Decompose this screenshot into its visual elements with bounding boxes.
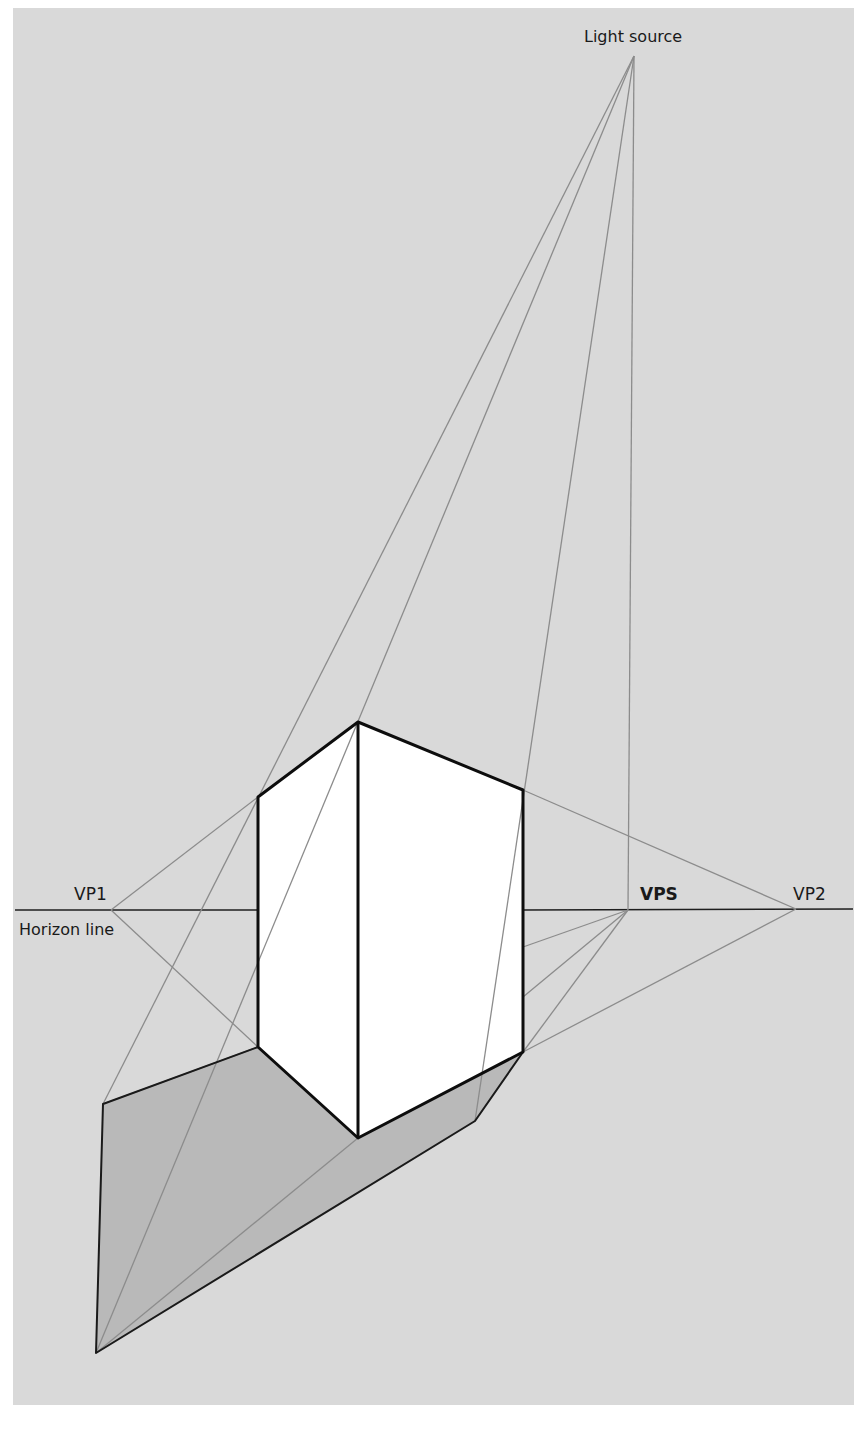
vp1-line-top <box>111 797 258 910</box>
perspective-diagram: Light source VP1 Horizon line VPS VP2 <box>0 0 866 1436</box>
vps-line-3 <box>523 910 628 1052</box>
vp2-label: VP2 <box>793 884 826 904</box>
horizon-line-label: Horizon line <box>19 920 114 939</box>
vps-label: VPS <box>640 884 678 904</box>
horizon-line-right <box>523 909 853 910</box>
vps-line-2 <box>523 910 628 997</box>
vp1-label: VP1 <box>74 884 107 904</box>
light-ray-right-corner <box>475 56 634 1121</box>
light-source-label: Light source <box>584 27 682 46</box>
vps-line-1 <box>523 910 628 947</box>
vp1-line-bottom <box>111 910 258 1047</box>
vp2-line-bottom <box>523 909 796 1052</box>
light-source-vertical-to-vps <box>628 56 634 910</box>
